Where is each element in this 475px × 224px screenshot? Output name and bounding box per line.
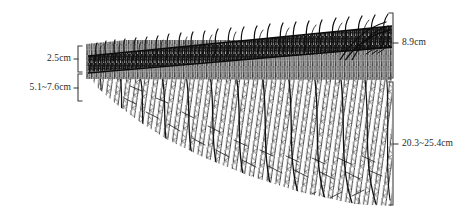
label-shoot-depth: 5.1~7.6cm (30, 83, 71, 93)
left-bracket-group (74, 46, 82, 101)
turfgrass-illustration (0, 0, 475, 224)
label-root-depth: 20.3~25.4cm (402, 139, 453, 149)
root-zone (80, 66, 400, 213)
label-canopy-height: 8.9cm (402, 38, 426, 48)
figure-canvas: 2.5cm 5.1~7.6cm 8.9cm 20.3~25.4cm (0, 0, 475, 224)
label-thatch-depth: 2.5cm (47, 54, 71, 64)
